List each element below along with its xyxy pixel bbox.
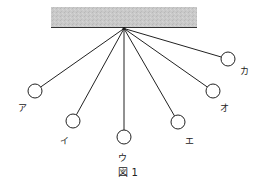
ceiling-block: [51, 7, 197, 27]
label-i: イ: [60, 136, 69, 146]
pendulums: [28, 29, 235, 145]
bob-i: [66, 114, 80, 128]
bob-ka: [221, 52, 235, 66]
bob-a: [28, 84, 42, 98]
string-o: [124, 29, 207, 87]
bob-u: [117, 130, 131, 144]
ceiling: [51, 7, 197, 28]
label-u: ウ: [118, 153, 127, 163]
string-a: [41, 29, 124, 87]
label-a: ア: [18, 103, 27, 113]
labels: ア イ ウ エ オ カ: [18, 66, 249, 163]
string-i: [76, 29, 124, 115]
bob-e: [171, 115, 185, 129]
pendulum-diagram: ア イ ウ エ オ カ 図 1: [0, 0, 256, 187]
label-ka: カ: [240, 66, 249, 76]
string-e: [124, 29, 174, 116]
string-ka: [124, 29, 221, 58]
label-e: エ: [185, 136, 194, 146]
label-o: オ: [220, 103, 229, 113]
bob-o: [206, 84, 220, 98]
figure-caption: 図 1: [118, 167, 138, 178]
